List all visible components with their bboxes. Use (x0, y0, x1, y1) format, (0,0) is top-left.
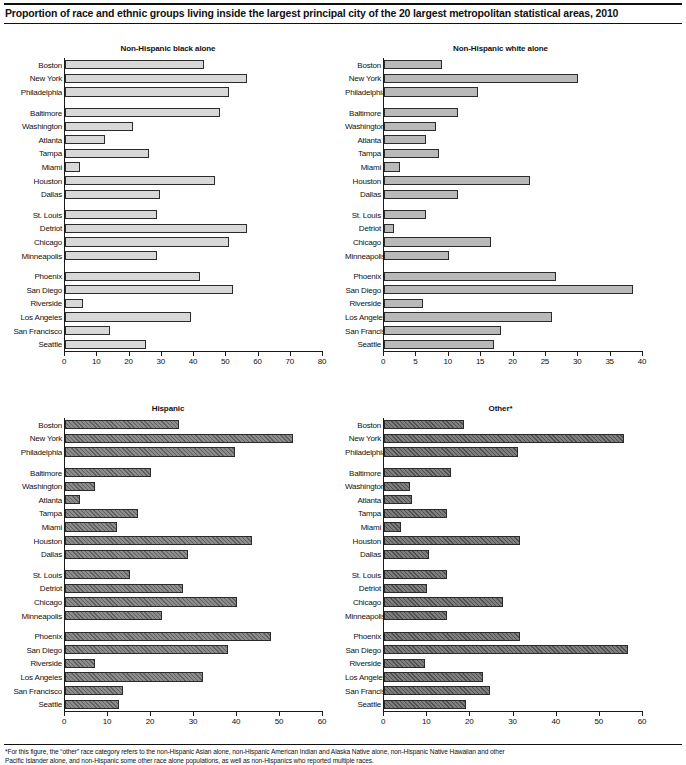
bar (384, 190, 458, 199)
bar (384, 584, 427, 593)
category-label: St. Louis (345, 211, 381, 220)
category-label: Tampa (0, 149, 62, 158)
x-axis-tick-label: 0 (52, 717, 76, 726)
x-axis-tick (480, 352, 481, 356)
bar (65, 536, 252, 545)
bar (384, 162, 400, 171)
bar (65, 108, 220, 117)
category-label: Houston (345, 177, 381, 186)
bar (384, 632, 520, 641)
x-axis-tick (129, 352, 130, 356)
category-label: Boston (345, 61, 381, 70)
bar (384, 326, 501, 335)
category-label: Los Angeles (0, 673, 62, 682)
bar (65, 584, 183, 593)
x-axis-tick-label: 30 (181, 717, 205, 726)
bar (384, 659, 425, 668)
category-label: Washington (345, 122, 381, 131)
bar (65, 495, 80, 504)
category-label: Baltimore (345, 469, 381, 478)
x-axis-tick-label: 10 (414, 717, 438, 726)
x-axis-tick (193, 712, 194, 716)
category-label: Minneapolis (345, 252, 381, 261)
category-label: Dallas (0, 550, 62, 559)
category-label: Riverside (345, 299, 381, 308)
x-axis-tick (161, 352, 162, 356)
bar (65, 672, 203, 681)
x-axis-tick-label: 10 (95, 717, 119, 726)
category-label: Philadelphia (345, 88, 381, 97)
bar (65, 468, 151, 477)
category-label: Atlanta (345, 136, 381, 145)
x-axis-tick (236, 712, 237, 716)
bar (65, 237, 229, 246)
bar (384, 700, 466, 709)
bar (65, 482, 95, 491)
category-label: New York (0, 74, 62, 83)
category-label: Detriot (0, 584, 62, 593)
category-label: Tampa (0, 509, 62, 518)
category-label: St. Louis (0, 211, 62, 220)
category-label: Phoenix (0, 632, 62, 641)
category-label: Houston (345, 537, 381, 546)
category-label: Los Angeles (0, 313, 62, 322)
x-axis-tick (448, 352, 449, 356)
bar (384, 108, 458, 117)
title-bottom-rule (4, 23, 682, 24)
x-axis-tick (577, 352, 578, 356)
bar (65, 74, 247, 83)
bar (384, 645, 628, 654)
category-label: Los Angeles (345, 313, 381, 322)
x-axis-tick-label: 0 (52, 357, 76, 366)
bar (65, 312, 191, 321)
category-label: San Diego (345, 286, 381, 295)
x-axis-tick-label: 60 (310, 717, 334, 726)
bar (384, 176, 530, 185)
category-label: San Francisco (345, 327, 381, 336)
x-axis-tick-label: 40 (544, 717, 568, 726)
bar (384, 237, 491, 246)
category-label: Riverside (345, 659, 381, 668)
category-label: Atlanta (0, 136, 62, 145)
category-label: Boston (0, 421, 62, 430)
bar (384, 536, 520, 545)
category-label: New York (345, 434, 381, 443)
x-axis-tick-label: 30 (149, 357, 173, 366)
bar (384, 420, 464, 429)
x-axis-tick (150, 712, 151, 716)
x-axis-tick-label: 0 (371, 357, 395, 366)
x-axis-tick (225, 352, 226, 356)
bar (65, 210, 157, 219)
bar (384, 570, 447, 579)
bar (65, 87, 229, 96)
bar (65, 420, 179, 429)
category-label: Boston (0, 61, 62, 70)
plot-area: BostonNew YorkPhiladelphiaBaltimoreWashi… (345, 418, 656, 733)
bar (384, 210, 426, 219)
category-label: Seattle (345, 340, 381, 349)
category-label: Tampa (345, 509, 381, 518)
footnote-line-2: Pacific Islander alone, and non-Hispanic… (5, 757, 681, 765)
x-axis-tick (322, 352, 323, 356)
category-label: Detriot (0, 224, 62, 233)
category-label: Washington (0, 482, 62, 491)
category-label: Miami (0, 163, 62, 172)
bar (384, 122, 436, 131)
category-label: Seattle (345, 700, 381, 709)
x-axis-tick (107, 712, 108, 716)
x-axis-tick-label: 20 (138, 717, 162, 726)
category-label: Philadelphia (0, 88, 62, 97)
bar (384, 149, 439, 158)
category-label: Houston (0, 177, 62, 186)
x-axis-tick-label: 5 (403, 357, 427, 366)
bar (65, 299, 83, 308)
bar (384, 597, 503, 606)
category-label: Baltimore (0, 469, 62, 478)
x-axis-tick-label: 40 (630, 357, 654, 366)
title-top-rule (4, 3, 682, 5)
bar (65, 611, 162, 620)
x-axis-tick-label: 50 (213, 357, 237, 366)
category-label: San Francisco (0, 687, 62, 696)
category-label: Miami (345, 523, 381, 532)
category-label: San Francisco (345, 687, 381, 696)
